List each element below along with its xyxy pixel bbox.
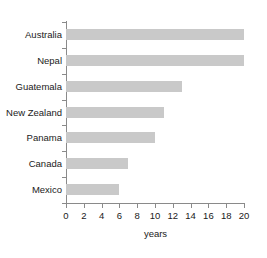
x-axis-tick-mark <box>155 204 156 208</box>
y-axis-category-labels: AustraliaNepalGuatemalaNew ZealandPanama… <box>0 22 62 203</box>
bar-row <box>66 48 244 74</box>
y-axis-tick-mark <box>62 177 66 178</box>
bar-row <box>66 177 244 203</box>
x-axis-tick-mark <box>137 204 138 208</box>
bar <box>66 29 244 40</box>
y-axis-tick-mark <box>62 100 66 101</box>
y-axis-tick-label: New Zealand <box>0 107 62 118</box>
x-axis-tick-mark <box>244 204 245 208</box>
bar <box>66 158 128 169</box>
x-axis-tick-mark <box>102 204 103 208</box>
x-axis-tick-mark <box>66 204 67 208</box>
y-axis-tick-mark <box>62 74 66 75</box>
x-axis-tick-mark <box>226 204 227 208</box>
bar-row <box>66 125 244 151</box>
y-axis-tick-label: Australia <box>0 29 62 40</box>
x-axis-tick-mark <box>208 204 209 208</box>
y-axis-tick-mark <box>62 125 66 126</box>
x-axis-tick-mark <box>119 204 120 208</box>
bar <box>66 107 164 118</box>
bar-row <box>66 22 244 48</box>
bar <box>66 81 182 92</box>
bar-row <box>66 151 244 177</box>
y-axis-tick-label: Panama <box>0 132 62 143</box>
bar <box>66 184 119 195</box>
bar-chart: AustraliaNepalGuatemalaNew ZealandPanama… <box>0 0 267 258</box>
y-axis-tick-label: Canada <box>0 158 62 169</box>
bar <box>66 55 244 66</box>
plot-area <box>66 22 244 203</box>
x-axis-tick-mark <box>84 204 85 208</box>
x-axis-title: years <box>66 228 245 239</box>
x-axis-tick-mark <box>173 204 174 208</box>
bar-row <box>66 74 244 100</box>
y-axis-tick-label: Nepal <box>0 55 62 66</box>
y-axis-tick-mark <box>62 22 66 23</box>
bar-row <box>66 100 244 126</box>
y-axis-tick-label: Guatemala <box>0 81 62 92</box>
bar <box>66 132 155 143</box>
y-axis-tick-mark <box>62 151 66 152</box>
y-axis-tick-mark <box>62 48 66 49</box>
x-axis-tick-mark <box>191 204 192 208</box>
x-axis-tick-label: 20 <box>234 210 254 221</box>
y-axis-tick-label: Mexico <box>0 184 62 195</box>
